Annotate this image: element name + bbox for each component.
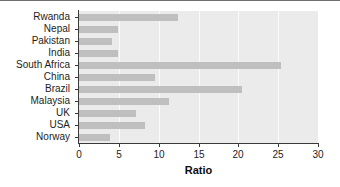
y-tick-mark <box>75 113 78 114</box>
category-label: Nepal <box>0 23 74 35</box>
x-axis-title: Ratio <box>79 164 318 176</box>
bar-row <box>79 35 318 47</box>
x-tick-mark <box>238 144 239 147</box>
bar <box>79 74 155 81</box>
bar <box>79 110 136 117</box>
bar <box>79 62 281 69</box>
bar <box>79 38 112 45</box>
x-tick-label: 30 <box>312 149 323 160</box>
category-label: Pakistan <box>0 35 74 47</box>
bar <box>79 98 169 105</box>
x-tick-label: 0 <box>76 149 82 160</box>
chart-figure: RwandaNepalPakistanIndiaSouth AfricaChin… <box>0 0 340 187</box>
y-tick-mark <box>75 41 78 42</box>
x-tick-mark <box>119 144 120 147</box>
x-tick-mark <box>278 144 279 147</box>
bar-row <box>79 71 318 83</box>
category-label: Rwanda <box>0 11 74 23</box>
figure-top-rule <box>0 0 340 1</box>
category-label: Malaysia <box>0 95 74 107</box>
x-tick-mark <box>199 144 200 147</box>
y-tick-mark <box>75 53 78 54</box>
y-tick-mark <box>75 29 78 30</box>
x-tick-mark <box>79 144 80 147</box>
category-label: South Africa <box>0 59 74 71</box>
y-tick-mark <box>75 137 78 138</box>
category-label: China <box>0 71 74 83</box>
category-label: India <box>0 47 74 59</box>
category-label: Norway <box>0 131 74 143</box>
bar <box>79 14 178 21</box>
bar <box>79 86 242 93</box>
y-tick-mark <box>75 65 78 66</box>
bar-row <box>79 119 318 131</box>
y-tick-mark <box>75 17 78 18</box>
bar-row <box>79 83 318 95</box>
y-axis-line <box>78 10 79 144</box>
category-label: Brazil <box>0 83 74 95</box>
bar-row <box>79 131 318 143</box>
category-label: USA <box>0 119 74 131</box>
category-axis-labels: RwandaNepalPakistanIndiaSouth AfricaChin… <box>0 11 74 143</box>
x-tick-mark <box>318 144 319 147</box>
x-tick-mark <box>159 144 160 147</box>
bar <box>79 122 145 129</box>
bar-row <box>79 107 318 119</box>
x-tick-label: 20 <box>232 149 243 160</box>
plot-area <box>79 11 318 143</box>
bar <box>79 50 118 57</box>
bar-row <box>79 59 318 71</box>
bar-row <box>79 47 318 59</box>
y-tick-mark <box>75 101 78 102</box>
x-tick-label: 5 <box>116 149 122 160</box>
y-tick-mark <box>75 89 78 90</box>
bar-row <box>79 11 318 23</box>
bar <box>79 134 110 141</box>
category-label: UK <box>0 107 74 119</box>
bar-series <box>79 11 318 143</box>
y-tick-mark <box>75 125 78 126</box>
x-tick-label: 15 <box>193 149 204 160</box>
bar-row <box>79 95 318 107</box>
x-tick-label: 10 <box>153 149 164 160</box>
bar-row <box>79 23 318 35</box>
bar <box>79 26 118 33</box>
x-tick-label: 25 <box>272 149 283 160</box>
y-tick-mark <box>75 77 78 78</box>
